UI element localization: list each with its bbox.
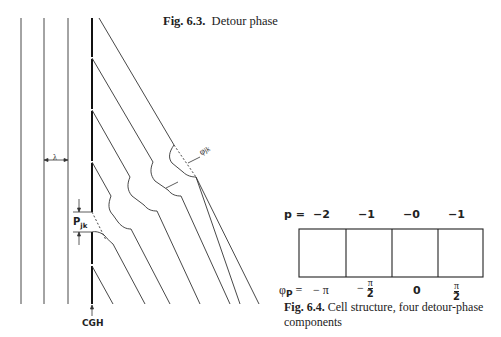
phi-value: π 2 [453,278,460,302]
diffracted-wavefront [92,58,230,304]
p-value: −2 [313,208,330,221]
p-value: −1 [448,208,465,221]
phi-value: − π [313,283,329,298]
diffracted-wavefront [92,266,113,304]
cgh-label: CGH [82,318,104,328]
diffracted-wavefront [92,232,145,304]
phi-label: φP = [279,283,302,299]
p-label: p = [284,208,305,221]
lambda-label: λ [53,153,57,162]
phi-value: − π 2 [357,278,374,299]
fig-6-4-caption: Fig. 6.4. Cell structure, four detour-ph… [284,300,494,330]
detour-phase-diagram [0,0,501,337]
p-value: −0 [403,208,420,221]
diffracted-wavefront [99,18,240,304]
phi-value: 0 [413,284,421,297]
fig-6-3-caption: Fig. 6.3. Detour phase [163,14,278,29]
diffracted-wavefront [92,110,200,304]
cell-structure-box [299,229,483,277]
p-jk-label: Pjk [73,216,87,230]
p-value: −1 [358,208,375,221]
